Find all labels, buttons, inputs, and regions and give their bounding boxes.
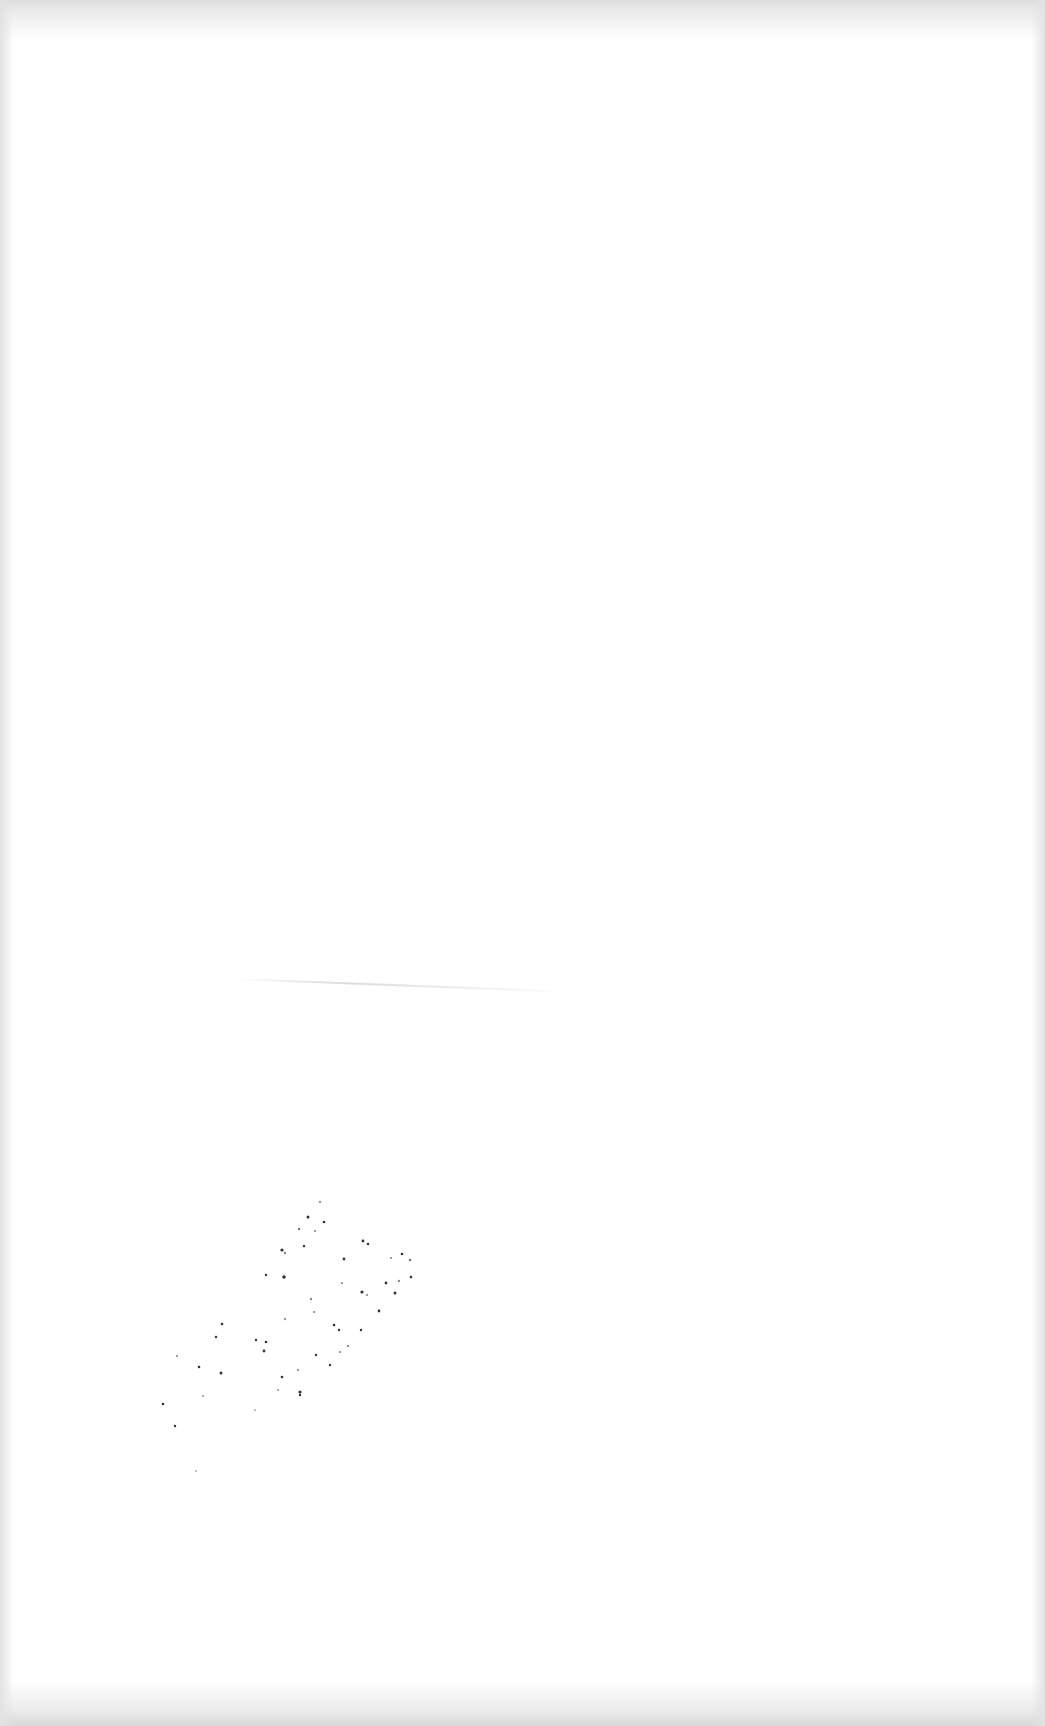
scan-edge-shadow-right	[1031, 0, 1045, 1726]
scan-edge-shadow-left	[0, 0, 14, 1726]
faint-scan-streak	[235, 978, 565, 993]
scan-edge-shadow-top	[0, 0, 1045, 40]
scan-speckle-noise	[150, 1180, 450, 1480]
blank-scanned-page	[0, 0, 1045, 1726]
scan-edge-shadow-bottom	[0, 1681, 1045, 1726]
